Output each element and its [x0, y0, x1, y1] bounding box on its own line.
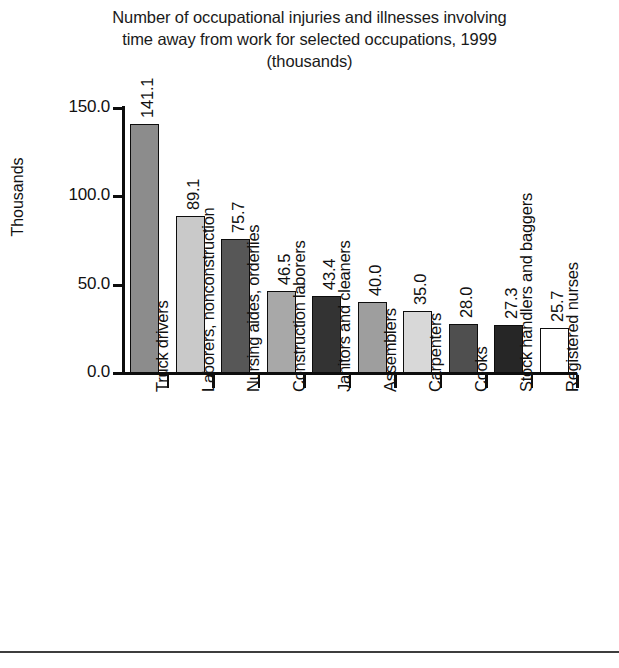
- bar-value-label: 40.0: [366, 265, 385, 296]
- x-category-label: Laborers, nonconstruction: [199, 207, 218, 392]
- x-category-label: Cooks: [472, 346, 491, 392]
- bar-value-label: 89.1: [184, 178, 203, 209]
- y-tick-label-1: 50.0: [38, 274, 110, 294]
- footer-divider: [0, 651, 619, 653]
- y-tick-mark-2: [113, 195, 122, 198]
- x-category-label: Truck drivers: [153, 301, 172, 392]
- x-category-label: Registered nurses: [563, 262, 582, 392]
- x-category-label: Carpenters: [426, 313, 445, 392]
- y-axis-tick-labels: 0.050.0100.0150.0: [28, 0, 110, 668]
- bar-value-label: 28.0: [457, 286, 476, 317]
- chart-page: Number of occupational injuries and illn…: [0, 0, 619, 668]
- y-tick-label-2: 100.0: [38, 185, 110, 205]
- x-category-label: Janitors and cleaners: [335, 240, 354, 392]
- x-category-label: Nursing aides, orderlies: [244, 225, 263, 392]
- x-axis-category-labels: Truck driversLaborers, nonconstructionNu…: [122, 392, 577, 642]
- x-category-label: Construction laborers: [290, 240, 309, 392]
- y-tick-mark-1: [113, 284, 122, 287]
- bar-group[interactable]: 28.0: [449, 108, 478, 373]
- bar-value-label: 141.1: [138, 77, 157, 117]
- x-category-label: Assemblers: [381, 308, 400, 392]
- y-tick-mark-0: [113, 372, 122, 375]
- y-tick-mark-3: [113, 107, 122, 110]
- y-tick-label-3: 150.0: [38, 97, 110, 117]
- x-category-label: Stock handlers and baggers: [517, 193, 536, 392]
- y-axis-title: Thousands: [9, 137, 27, 257]
- bar-value-label: 35.0: [411, 274, 430, 305]
- y-tick-label-0: 0.0: [38, 362, 110, 382]
